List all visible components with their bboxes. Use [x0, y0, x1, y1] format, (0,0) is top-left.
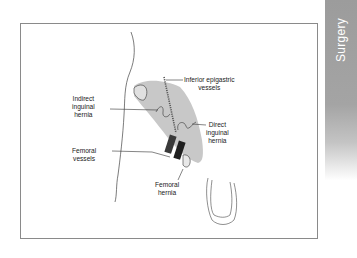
label-direct-hernia: Direct inguinal hernia	[206, 121, 229, 145]
label-line: vessels	[184, 84, 235, 92]
hernia-diagram	[0, 0, 357, 258]
label-line: hernia	[155, 189, 179, 197]
label-indirect-hernia: Indirect inguinal hernia	[72, 95, 95, 119]
body-contour-line	[115, 32, 134, 202]
label-line: inguinal	[206, 129, 229, 137]
label-femoral-vessels: Femoral vessels	[72, 147, 96, 163]
leader-femoral-hernia	[178, 169, 183, 180]
label-line: Inferior epigastric	[184, 76, 235, 84]
label-line: Indirect	[72, 95, 95, 103]
label-line: vessels	[72, 155, 96, 163]
scrotum-inner	[211, 180, 232, 217]
label-line: Direct	[206, 121, 229, 129]
label-line: Femoral	[72, 147, 96, 155]
label-line: hernia	[206, 137, 229, 145]
label-inferior-epigastric: Inferior epigastric vessels	[184, 76, 235, 92]
label-line: Femoral	[155, 181, 179, 189]
label-femoral-hernia: Femoral hernia	[155, 181, 179, 197]
label-line: hernia	[72, 111, 95, 119]
label-line: inguinal	[72, 103, 95, 111]
